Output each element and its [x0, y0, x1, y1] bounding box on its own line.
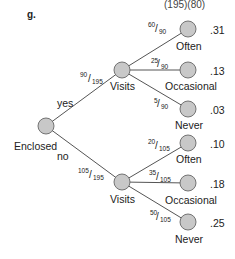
visits-node-yes — [114, 62, 130, 78]
leaf-no-occasional: 35 / 105 Occasional .18 — [149, 169, 225, 206]
visits-node-no — [114, 174, 130, 190]
leaf-probability: .18 — [210, 178, 225, 190]
leaf-probability: .10 — [210, 138, 225, 150]
fraction-num: 90 — [80, 71, 88, 78]
fraction-den: 105 — [160, 216, 171, 223]
fraction-den: 195 — [92, 78, 103, 85]
branch-yes-label: yes — [57, 97, 73, 109]
leaf-probability: .25 — [210, 217, 225, 229]
fraction-den: 195 — [93, 174, 104, 181]
leaf-no-never: 50 / 105 Never .25 — [150, 209, 225, 245]
leaf-node — [180, 175, 196, 191]
branch-no-label: no — [57, 150, 69, 162]
leaf-node — [180, 135, 196, 151]
fraction-num: 105 — [78, 167, 89, 174]
leaf-node — [180, 214, 196, 230]
leaf-label: Occasional — [165, 194, 217, 206]
fraction-den: 105 — [159, 145, 170, 152]
fraction-slash: / — [157, 58, 160, 69]
edge-no-occasional — [122, 182, 188, 183]
leaf-node — [180, 101, 196, 117]
leaf-probability: .03 — [210, 104, 225, 116]
figure-label: g. — [27, 9, 36, 20]
leaf-node — [180, 21, 196, 37]
fraction-slash: / — [89, 169, 92, 180]
leaf-yes-occasional: 25 / 90 Occasional .13 — [151, 57, 225, 92]
leaf-label: Often — [176, 153, 202, 165]
leaf-node — [180, 62, 196, 78]
leaf-label: Often — [176, 40, 202, 52]
fraction-den: 90 — [161, 63, 169, 70]
probability-tree-diagram: (195)(80) g. Enclosed yes no 90 / 195 10… — [0, 0, 235, 259]
leaf-probability: .13 — [210, 65, 225, 77]
visits-label-no: Visits — [110, 193, 135, 205]
fraction-slash: / — [155, 140, 158, 151]
fraction-den: 105 — [160, 176, 171, 183]
fraction-slash: / — [156, 211, 159, 222]
fraction-slash: / — [157, 98, 160, 109]
fraction-yes: 90 / 195 — [80, 71, 103, 85]
fraction-no: 105 / 195 — [78, 167, 104, 181]
root-label: Enclosed — [14, 140, 57, 152]
fraction-slash: / — [156, 171, 159, 182]
leaf-yes-never: 5 / 90 Never .03 — [154, 97, 225, 131]
leaf-yes-often: 60 / 90 Often .31 — [148, 21, 225, 52]
leaf-probability: .31 — [210, 24, 225, 36]
leaf-no-often: 20 / 105 Often .10 — [148, 135, 225, 165]
visits-label-yes: Visits — [110, 80, 135, 92]
fraction-slash: / — [88, 73, 91, 84]
leaf-label: Occasional — [165, 80, 217, 92]
leaf-label: Never — [175, 233, 204, 245]
clipped-header-text: (195)(80) — [164, 0, 205, 10]
root-node — [38, 118, 54, 134]
leaf-label: Never — [175, 119, 204, 131]
fraction-slash: / — [155, 23, 158, 34]
fraction-den: 90 — [159, 28, 167, 35]
fraction-den: 90 — [161, 103, 169, 110]
